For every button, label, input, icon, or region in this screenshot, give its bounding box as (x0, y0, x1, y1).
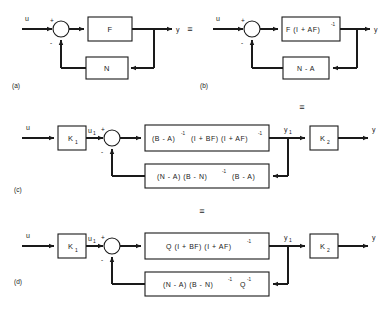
panel-d-mid-input-base: u (88, 235, 92, 242)
panel-b: u + - F (I + AF) -1 y N - A (b) (200, 15, 378, 90)
panel-b-output-label: y (374, 26, 378, 34)
panel-a-input-label: u (25, 15, 29, 22)
panel-c-output-label: y (372, 126, 376, 134)
panel-b-feedback-block-label: N - A (297, 65, 315, 72)
panel-c-mid-output-sub: 1 (289, 129, 292, 135)
panel-d-mid-output-label: y 1 (284, 234, 292, 243)
panel-d-pre-gain-sub: 1 (75, 247, 78, 253)
panel-a-sum-minus-sign: - (50, 39, 52, 46)
panel-d-mid-input-sub: 1 (93, 238, 96, 244)
panel-d-forward-sup1: -1 (247, 239, 252, 244)
panel-d-pre-gain-base: K (68, 242, 73, 251)
panel-d-post-gain-sub: 2 (327, 247, 330, 253)
panel-c-mid-input-base: u (88, 127, 92, 134)
panel-c: u K 1 u 1 + - (B - A) -1 (I (14, 124, 376, 194)
panel-b-input-label: u (216, 15, 220, 22)
panel-c-pre-gain-sub: 1 (75, 139, 78, 145)
panel-c-forward-part2: (I + BF) (I + AF) (191, 135, 248, 143)
panel-c-summing-junction (104, 130, 120, 146)
panel-b-forward-base: F (I + AF) (286, 26, 320, 34)
panel-d-sum-minus-sign: - (101, 256, 103, 263)
panel-d: u K 1 u 1 + - Q (I + BF) (I + AF) -1 (14, 232, 376, 296)
panel-b-forward-exponent: -1 (331, 22, 336, 27)
panel-c-pre-gain-base: K (68, 134, 73, 143)
panel-b-label: (b) (200, 82, 208, 90)
panel-b-sum-minus-sign: - (241, 39, 243, 46)
diagram-canvas: u + - F y N (a) ≡ (0, 0, 389, 320)
panel-b-summing-junction (244, 21, 260, 37)
panel-d-feedback-sup2: -1 (247, 277, 252, 282)
panel-c-post-gain-base: K (320, 134, 325, 143)
panel-d-forward-part1: Q (I + BF) (I + AF) (166, 243, 232, 251)
panel-c-sum-minus-sign: - (101, 148, 103, 155)
panel-c-forward-part1: (B - A) (152, 135, 175, 143)
panel-c-mid-input-sub: 1 (93, 130, 96, 136)
panel-d-feedback-part2: Q (240, 281, 246, 289)
panel-c-mid-output-base: y (284, 126, 288, 134)
panel-a-feedback-block-label: N (104, 64, 110, 73)
panel-d-feedback-sup1: -1 (228, 277, 233, 282)
equivalence-symbol-ab: ≡ (187, 24, 192, 34)
panel-a: u + - F y N (a) (12, 15, 180, 90)
block-diagram-figure: u + - F y N (a) ≡ (0, 0, 389, 320)
panel-d-output-label: y (372, 234, 376, 242)
panel-d-summing-junction (104, 238, 120, 254)
panel-c-forward-sup2: -1 (258, 131, 263, 136)
panel-c-input-label: u (26, 124, 30, 131)
panel-d-post-gain-base: K (320, 242, 325, 251)
panel-d-label: (d) (14, 278, 22, 286)
panel-a-sum-plus-sign: + (50, 17, 54, 24)
panel-c-post-gain-sub: 2 (327, 139, 330, 145)
panel-a-output-label: y (176, 26, 180, 34)
panel-c-forward-sup1: -1 (181, 131, 186, 136)
panel-a-summing-junction (53, 21, 69, 37)
panel-d-feedback-part1: (N - A) (B - N) (163, 281, 213, 289)
panel-a-label: (a) (12, 82, 20, 90)
panel-d-input-label: u (26, 232, 30, 239)
panel-c-feedback-sup1: -1 (222, 169, 227, 174)
panel-d-mid-output-base: y (284, 234, 288, 242)
panel-d-mid-output-sub: 1 (289, 237, 292, 243)
equivalence-symbol-bc: ≡ (299, 102, 304, 112)
panel-a-forward-block-label: F (108, 25, 113, 34)
panel-d-mid-input-label: u 1 (88, 235, 96, 244)
panel-c-sum-plus-sign: + (101, 126, 105, 133)
equivalence-symbol-cd: ≡ (199, 206, 204, 216)
panel-d-sum-plus-sign: + (101, 234, 105, 241)
panel-c-mid-output-label: y 1 (284, 126, 292, 135)
panel-c-feedback-part2: (B - A) (232, 173, 255, 181)
panel-c-label: (c) (14, 186, 22, 194)
panel-c-feedback-part1: (N - A) (B - N) (157, 173, 207, 181)
panel-c-mid-input-label: u 1 (88, 127, 96, 136)
panel-b-sum-plus-sign: + (241, 17, 245, 24)
